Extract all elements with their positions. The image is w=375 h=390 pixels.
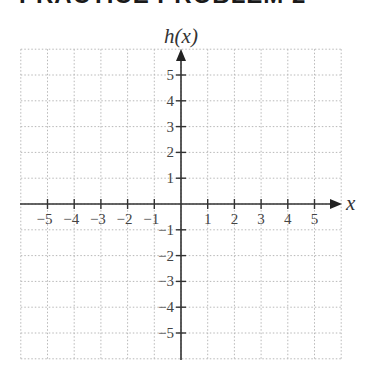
x-tick-label: 5 (311, 211, 319, 227)
x-tick-label: −5 (37, 211, 53, 227)
coordinate-plane: −5−4−3−2−112345 54321−1−2−3−4−5 x h(x) (0, 0, 375, 390)
y-axis-arrow-icon (176, 49, 186, 61)
x-tick-label: −2 (117, 211, 133, 227)
y-tick-label: 1 (167, 170, 175, 186)
x-tick-label: −1 (143, 211, 159, 227)
y-tick-label: 2 (167, 144, 175, 160)
x-axis-arrow-icon (330, 199, 342, 209)
y-tick-label: −1 (158, 222, 174, 238)
y-tick-label: 5 (167, 67, 175, 83)
x-tick-label: −3 (90, 211, 106, 227)
y-tick-label: 3 (167, 119, 175, 135)
y-tick-label: 4 (167, 93, 175, 109)
y-tick-label: −2 (158, 248, 174, 264)
x-tick-labels: −5−4−3−2−112345 (37, 211, 319, 227)
y-tick-label: −4 (158, 299, 174, 315)
x-tick-label: 3 (257, 211, 265, 227)
y-axis-label: h(x) (164, 24, 198, 48)
y-tick-label: −5 (158, 325, 174, 341)
x-axis-label: x (345, 191, 356, 215)
x-tick-label: 4 (284, 211, 292, 227)
x-tick-label: 1 (204, 211, 212, 227)
x-tick-label: 2 (231, 211, 239, 227)
x-tick-label: −4 (63, 211, 79, 227)
y-tick-label: −3 (158, 273, 174, 289)
axes (20, 49, 342, 360)
